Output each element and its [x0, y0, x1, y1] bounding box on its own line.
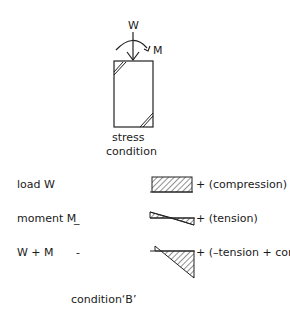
- caption-line2: condition: [106, 146, 157, 157]
- row-label-load: load W: [17, 179, 55, 190]
- row-label-combined: W + M: [17, 247, 54, 258]
- row-dash-combined: -: [76, 247, 80, 258]
- stress-diagram: [0, 0, 290, 324]
- row-result-moment: + (tension): [196, 213, 258, 224]
- load-label: W: [128, 20, 139, 31]
- load-arrow-icon: [127, 32, 139, 60]
- row-result-load: + (compression): [196, 179, 287, 190]
- row-result-combined: + (–tension + compression): [196, 247, 290, 258]
- caption-line1: stress: [112, 132, 145, 143]
- moment-stress-block: [150, 212, 195, 225]
- load-stress-block: [150, 177, 193, 192]
- row-dash-moment: _: [74, 213, 80, 224]
- combined-stress-block: [150, 246, 195, 278]
- moment-label: M: [153, 45, 163, 56]
- row-label-moment: moment M: [17, 213, 76, 224]
- column-section: [114, 61, 153, 127]
- footer-caption: condition‘B’: [71, 294, 136, 305]
